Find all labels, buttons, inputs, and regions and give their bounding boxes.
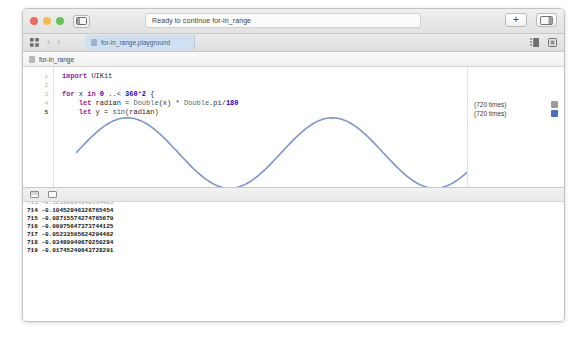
code-token <box>62 108 79 116</box>
playground-file-icon <box>29 56 35 63</box>
grid-view-icon[interactable] <box>29 37 40 48</box>
line-number: 4 <box>44 101 48 107</box>
line-number: 3 <box>44 92 48 98</box>
code-token: { <box>146 90 154 98</box>
editor-panel-icon[interactable] <box>536 13 557 27</box>
code-token: in <box>87 90 95 98</box>
code-token: x <box>75 90 88 98</box>
code-token: .pi/ <box>209 99 226 107</box>
tab-label: for-in_range.playground <box>101 39 170 46</box>
titlebar-right-group: + <box>505 13 557 27</box>
console-line: 719 -0.01745240643728291 <box>27 248 113 254</box>
back-arrow-icon[interactable]: ‹ <box>47 38 50 47</box>
status-text: Ready to continue for-in_range <box>152 17 251 24</box>
forward-arrow-icon[interactable]: › <box>57 38 60 47</box>
line-number: 2 <box>44 83 48 89</box>
console-line: 714 -0.10452846326765454 <box>27 208 113 214</box>
results-sidebar: (720 times) (720 times) (720 times) <box>467 67 564 187</box>
line-number-gutter: 1 2 3 4 5 6 7 <box>23 67 54 187</box>
code-token: radian = <box>91 99 133 107</box>
code-line-3: for x in 0 ..< 360*2 { <box>62 91 154 98</box>
title-bar: Ready to continue for-in_range + <box>23 9 564 34</box>
code-line-1: import UIKit <box>62 73 112 80</box>
zoom-button[interactable] <box>56 17 64 25</box>
code-token: for <box>62 90 75 98</box>
code-token: let <box>79 108 92 116</box>
variables-pane-icon[interactable] <box>48 191 57 198</box>
code-token: 180 <box>226 99 239 107</box>
result-quicklook-icon[interactable] <box>551 101 558 108</box>
tab-for-in-range-playground[interactable]: for-in_range.playground <box>85 35 195 50</box>
playground-doc-icon <box>91 39 97 46</box>
line-number: 1 <box>44 74 48 80</box>
console-line: 717 -0.05233595624294462 <box>27 232 113 238</box>
code-token: Double <box>133 99 158 107</box>
code-token: 360 <box>125 90 138 98</box>
code-token: ..< <box>104 90 125 98</box>
console-line: 718 -0.03489949670250284 <box>27 240 113 246</box>
code-line-4: let radian = Double(x) * Double.pi/180 <box>62 100 239 107</box>
close-button[interactable] <box>30 17 38 25</box>
breadcrumb-label: for-in_range <box>39 56 74 63</box>
code-token: sin <box>112 108 125 116</box>
sine-wave-inline-graph <box>76 109 467 187</box>
status-field[interactable]: Ready to continue for-in_range <box>145 13 421 28</box>
result-label: (720 times) <box>474 110 507 117</box>
result-quicklook-icon[interactable] <box>551 110 558 117</box>
console-line: 715 -0.08715574274765679 <box>27 216 113 222</box>
sidebar-toggle-icon[interactable] <box>73 15 90 28</box>
result-row[interactable]: (720 times) <box>468 108 564 118</box>
xcode-window: Ready to continue for-in_range + <box>22 8 565 322</box>
add-button[interactable]: + <box>505 13 527 27</box>
result-label: (720 times) <box>474 101 507 108</box>
screenshot-root: Ready to continue for-in_range + <box>0 0 585 337</box>
code-token: (x) * <box>159 99 184 107</box>
navigation-arrows: ‹ › <box>47 38 60 47</box>
console-line: 713 -0.12186934340514423 <box>27 202 113 206</box>
code-token: (radian) <box>125 108 159 116</box>
code-token: import <box>62 72 91 80</box>
list-view-icon[interactable] <box>529 37 540 48</box>
breadcrumb[interactable]: for-in_range <box>23 52 564 67</box>
editor-area: 1 2 3 4 5 6 7 import UIKit for x in 0 ..… <box>23 67 564 187</box>
tabbar-right-group <box>529 37 558 48</box>
code-line-5: let y = sin(radian) <box>62 109 159 116</box>
console-output[interactable]: 713 -0.12186934340514423 714 -0.10452846… <box>23 202 564 322</box>
assistant-editor-icon[interactable] <box>547 37 558 48</box>
console-toolbar <box>23 187 564 202</box>
code-token: UIKit <box>91 72 112 80</box>
code-token: y = <box>91 108 112 116</box>
line-number: 5 <box>44 110 48 116</box>
console-line: 716 -0.06975647373744125 <box>27 224 113 230</box>
minimize-button[interactable] <box>43 17 51 25</box>
traffic-lights <box>30 17 64 25</box>
tab-bar: ‹ › for-in_range.playground <box>23 34 564 52</box>
code-area[interactable]: import UIKit for x in 0 ..< 360*2 { let … <box>54 67 467 187</box>
code-token <box>62 99 79 107</box>
code-token: Double <box>184 99 209 107</box>
console-pane-icon[interactable] <box>30 191 39 198</box>
code-token: let <box>79 99 92 107</box>
